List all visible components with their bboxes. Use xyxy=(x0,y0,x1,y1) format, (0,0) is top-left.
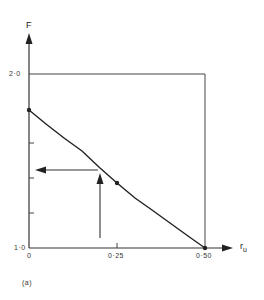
up-arrowhead-icon xyxy=(97,173,104,184)
x-axis-arrowhead-icon xyxy=(222,245,233,252)
y-tick-label-bottom: 1·0 xyxy=(14,244,26,251)
marker-mid xyxy=(115,181,119,185)
chart-canvas xyxy=(0,0,264,300)
x-axis-label-sub: u xyxy=(243,246,247,253)
x-tick-label-end: 0·50 xyxy=(196,252,212,259)
x-axis-label: ru xyxy=(240,241,247,253)
marker-start xyxy=(27,108,31,112)
panel-label: (a) xyxy=(22,279,32,286)
left-arrowhead-icon xyxy=(35,167,46,174)
y-tick-label-top: 2·0 xyxy=(9,70,21,77)
marker-end xyxy=(203,246,207,250)
x-tick-label-zero: 0 xyxy=(27,252,31,259)
x-tick-label-mid: 0·25 xyxy=(108,252,124,259)
f-curve xyxy=(29,110,205,248)
y-axis-label: F xyxy=(26,20,32,30)
y-axis-arrowhead-icon xyxy=(26,33,33,44)
